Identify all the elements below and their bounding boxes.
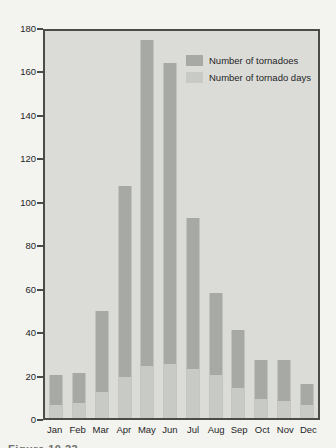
x-tick-label-jan: Jan bbox=[43, 424, 66, 435]
bar-column-jun bbox=[159, 31, 182, 418]
y-tick-label: 160 bbox=[0, 66, 36, 78]
bar-column-may bbox=[136, 31, 159, 418]
y-tick-label: 0 bbox=[0, 414, 36, 426]
bar-tornado-days-nov bbox=[277, 401, 290, 418]
bar-tornado-days-jul bbox=[186, 369, 199, 418]
bar-column-oct bbox=[250, 31, 273, 418]
bar-tornado-days-jun bbox=[164, 364, 177, 418]
x-tick-label-aug: Aug bbox=[205, 424, 228, 435]
bar-tornadoes-may bbox=[141, 40, 154, 418]
x-tick-label-jul: Jul bbox=[181, 424, 204, 435]
y-tick-label: 100 bbox=[0, 197, 36, 209]
bar-column-dec bbox=[295, 31, 318, 418]
bar-column-mar bbox=[91, 31, 114, 418]
plot-area: Number of tornadoesNumber of tornado day… bbox=[43, 29, 320, 420]
y-tick-label: 140 bbox=[0, 110, 36, 122]
x-tick-label-sep: Sep bbox=[228, 424, 251, 435]
bar-tornado-days-sep bbox=[232, 388, 245, 418]
legend-label: Number of tornadoes bbox=[209, 55, 298, 66]
bar-tornado-days-jan bbox=[50, 405, 63, 418]
x-tick-label-dec: Dec bbox=[297, 424, 320, 435]
tornado-frequency-figure: 020406080100120140160180 Number of torna… bbox=[0, 0, 336, 448]
bar-column-jul bbox=[182, 31, 205, 418]
tornado-days-swatch-icon bbox=[186, 72, 203, 83]
bar-tornado-days-apr bbox=[118, 377, 131, 418]
bar-column-sep bbox=[227, 31, 250, 418]
bar-tornado-days-mar bbox=[95, 392, 108, 418]
x-tick-label-may: May bbox=[135, 424, 158, 435]
x-tick-label-oct: Oct bbox=[251, 424, 274, 435]
legend: Number of tornadoesNumber of tornado day… bbox=[186, 55, 311, 89]
x-tick-label-feb: Feb bbox=[66, 424, 89, 435]
y-tick-label: 180 bbox=[0, 23, 36, 35]
bar-tornado-days-may bbox=[141, 366, 154, 418]
bar-column-nov bbox=[273, 31, 296, 418]
bar-column-jan bbox=[45, 31, 68, 418]
bar-column-apr bbox=[113, 31, 136, 418]
y-tick-label: 40 bbox=[0, 327, 36, 339]
bar-column-feb bbox=[68, 31, 91, 418]
legend-label: Number of tornado days bbox=[209, 72, 311, 83]
bars-row bbox=[45, 31, 318, 418]
bar-tornado-days-oct bbox=[255, 399, 268, 418]
y-tick-label: 20 bbox=[0, 371, 36, 383]
x-tick-label-jun: Jun bbox=[158, 424, 181, 435]
cropped-caption: Figure 10.23 bbox=[8, 443, 78, 448]
y-tick-label: 80 bbox=[0, 240, 36, 252]
bar-tornado-days-dec bbox=[300, 405, 313, 418]
tornadoes-swatch-icon bbox=[186, 55, 203, 66]
y-tick-label: 60 bbox=[0, 284, 36, 296]
bar-column-aug bbox=[204, 31, 227, 418]
legend-row: Number of tornadoes bbox=[186, 55, 311, 66]
y-tick-label: 120 bbox=[0, 153, 36, 165]
legend-row: Number of tornado days bbox=[186, 72, 311, 83]
bar-tornado-days-aug bbox=[209, 375, 222, 418]
x-tick-label-nov: Nov bbox=[274, 424, 297, 435]
x-tick-label-mar: Mar bbox=[89, 424, 112, 435]
x-tick-label-apr: Apr bbox=[112, 424, 135, 435]
bar-tornado-days-feb bbox=[73, 403, 86, 418]
x-axis-labels: JanFebMarAprMayJunJulAugSepOctNovDec bbox=[43, 424, 320, 435]
